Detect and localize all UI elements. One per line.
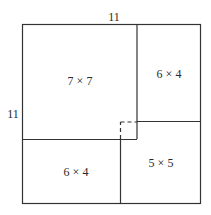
bottom-left-rect-label: 6 × 4 xyxy=(64,166,89,178)
top-side-label: 11 xyxy=(108,11,120,23)
outer-square xyxy=(23,25,201,204)
square-dissection-diagram xyxy=(0,0,211,215)
overlap-dashed-corner xyxy=(121,122,138,139)
bottom-right-square-label: 5 × 5 xyxy=(149,157,174,169)
top-right-rect-label: 6 × 4 xyxy=(157,68,182,80)
big-square-label: 7 × 7 xyxy=(68,75,93,87)
left-side-label: 11 xyxy=(7,108,19,120)
